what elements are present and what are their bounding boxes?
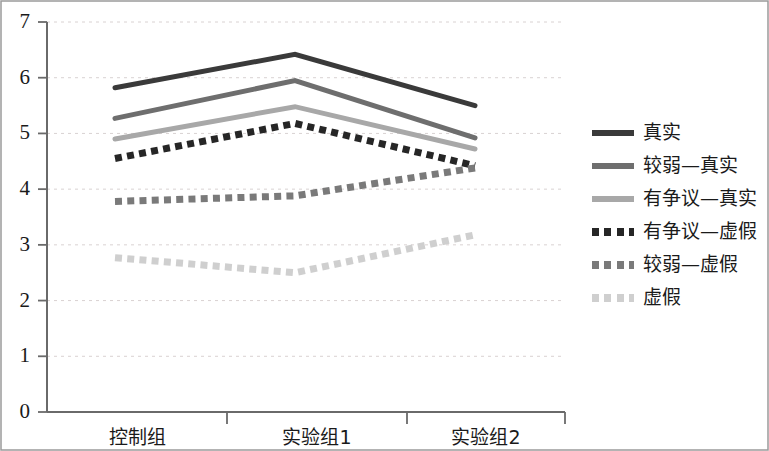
legend-item[interactable]: 较弱—真实: [592, 149, 768, 182]
x-axis-tick-label: 控制组: [57, 426, 217, 448]
y-axis-tick-label: 0: [8, 401, 30, 422]
legend-swatch-bar: [592, 130, 634, 136]
y-axis-ticks: [38, 22, 47, 412]
legend-swatch-icon: [592, 258, 634, 272]
legend-swatch-icon: [592, 126, 634, 140]
gridlines: [47, 22, 565, 356]
legend-swatch-bar: [592, 261, 634, 269]
series-line: [115, 168, 475, 201]
series-line: [115, 107, 475, 149]
legend-item[interactable]: 真实: [592, 116, 768, 149]
legend-swatch-icon: [592, 291, 634, 305]
y-axis-tick-label: 2: [8, 290, 30, 311]
legend-swatch-bar: [592, 163, 634, 169]
legend-swatch-bar: [592, 294, 634, 302]
series-line: [115, 235, 475, 273]
y-axis-tick-label: 3: [8, 234, 30, 255]
x-axis-tick-label: 实验组2: [406, 426, 566, 448]
x-axis-tick-label: 实验组1: [237, 426, 397, 448]
legend-swatch-icon: [592, 225, 634, 239]
y-axis-tick-label: 5: [8, 122, 30, 143]
legend-swatch-bar: [592, 196, 634, 202]
series-lines: [115, 54, 475, 272]
legend-label: 有争议—虚假: [643, 221, 757, 242]
line-chart: 01234567 控制组实验组1实验组2 真实较弱—真实有争议—真实有争议—虚假…: [0, 0, 769, 451]
y-axis-tick-label: 7: [8, 11, 30, 32]
legend-swatch-icon: [592, 159, 634, 173]
legend-label: 虚假: [643, 287, 681, 308]
legend-item[interactable]: 较弱—虚假: [592, 248, 768, 281]
legend-label: 较弱—虚假: [643, 254, 738, 275]
legend-label: 真实: [643, 122, 681, 143]
x-axis-ticks: [227, 412, 565, 424]
y-axis-tick-label: 4: [8, 178, 30, 199]
y-axis-tick-label: 1: [8, 345, 30, 366]
legend-item[interactable]: 虚假: [592, 281, 768, 314]
axes: [47, 22, 565, 412]
legend-swatch-icon: [592, 192, 634, 206]
legend-label: 较弱—真实: [643, 155, 738, 176]
chart-legend: 真实较弱—真实有争议—真实有争议—虚假较弱—虚假虚假: [592, 116, 768, 314]
legend-label: 有争议—真实: [643, 188, 757, 209]
y-axis-tick-label: 6: [8, 67, 30, 88]
legend-swatch-bar: [592, 228, 634, 236]
legend-item[interactable]: 有争议—虚假: [592, 215, 768, 248]
legend-item[interactable]: 有争议—真实: [592, 182, 768, 215]
